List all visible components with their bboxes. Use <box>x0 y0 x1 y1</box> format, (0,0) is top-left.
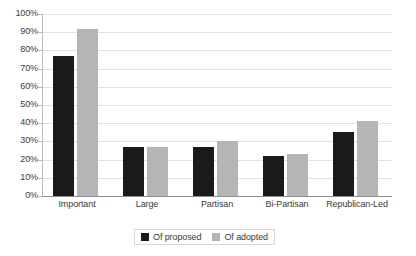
bar <box>333 132 354 196</box>
legend-swatch-icon <box>212 233 220 241</box>
y-tick-label: 30% <box>0 136 38 145</box>
y-tick-label: 80% <box>0 45 38 54</box>
y-tick-label: 50% <box>0 100 38 109</box>
chart-legend: Of proposedOf adopted <box>134 229 275 245</box>
y-tick-label: 20% <box>0 155 38 164</box>
y-tick-label: 90% <box>0 27 38 36</box>
bar <box>77 29 98 196</box>
x-tick-label: Republican-Led <box>322 199 392 210</box>
y-tick-label: 0% <box>0 191 38 200</box>
legend-item: Of proposed <box>141 233 201 242</box>
bar-group <box>112 14 182 196</box>
x-tick-label: Bi-Partisan <box>252 199 322 210</box>
x-tick-label: Partisan <box>182 199 252 210</box>
y-axis-line <box>42 14 43 197</box>
bar-chart: 0%10%20%30%40%50%60%70%80%90%100% Import… <box>0 0 416 256</box>
y-tick-label: 10% <box>0 173 38 182</box>
bar <box>147 147 168 196</box>
bar <box>53 56 74 196</box>
bar-group <box>182 14 252 196</box>
bar <box>287 154 308 196</box>
bar <box>357 121 378 196</box>
y-axis: 0%10%20%30%40%50%60%70%80%90%100% <box>0 0 38 196</box>
x-tick-label: Important <box>42 199 112 210</box>
plot-area <box>42 14 392 196</box>
legend-label: Of proposed <box>153 233 201 242</box>
bar-group <box>322 14 392 196</box>
x-axis-line <box>42 196 392 197</box>
legend-swatch-icon <box>141 233 149 241</box>
y-tick-label: 60% <box>0 82 38 91</box>
y-tick-label: 40% <box>0 118 38 127</box>
y-tick-label: 70% <box>0 64 38 73</box>
bar-group <box>252 14 322 196</box>
legend-item: Of adopted <box>212 233 268 242</box>
bar <box>217 141 238 196</box>
legend-label: Of adopted <box>224 233 268 242</box>
y-tick-label: 100% <box>0 9 38 18</box>
x-tick-label: Large <box>112 199 182 210</box>
bar-group <box>42 14 112 196</box>
bar <box>193 147 214 196</box>
bar <box>263 156 284 196</box>
bar <box>123 147 144 196</box>
